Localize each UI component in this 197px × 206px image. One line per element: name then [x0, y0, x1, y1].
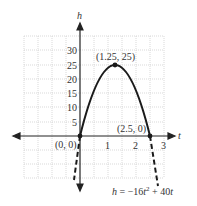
y-axis-down-arrow-icon	[77, 184, 83, 191]
eq-mid: = −16	[117, 186, 143, 197]
y-tick-10: 10	[67, 102, 77, 113]
x-axis-right-arrow-icon	[168, 133, 175, 139]
y-tick-30: 30	[67, 45, 77, 56]
x-tick-2: 2	[133, 140, 138, 151]
point-origin	[78, 134, 83, 139]
y-tick-20: 20	[67, 74, 77, 85]
point-vertex	[113, 63, 118, 68]
y-tick-5: 5	[72, 117, 77, 128]
x-tick-3: 3	[161, 140, 166, 151]
grid	[24, 36, 164, 178]
y-tick-25: 25	[67, 60, 77, 71]
eq-t2: t	[170, 186, 173, 197]
x-tick-labels: 1 2 3	[105, 140, 166, 151]
eq-end: + 40	[150, 186, 171, 197]
x-axis-left-arrow-icon	[13, 133, 20, 139]
equation-label: h = −16t2 + 40t	[112, 185, 173, 197]
y-axis-up-arrow-icon	[77, 23, 83, 30]
x-tick-1: 1	[105, 140, 110, 151]
parabola-curve-dashed-right	[150, 136, 158, 186]
y-axis-label: h	[77, 10, 82, 21]
x-axis-label: t	[178, 130, 181, 141]
y-tick-labels: 5 10 15 20 25 30	[67, 45, 77, 128]
point-root	[148, 134, 153, 139]
parabola-chart: t h 1 2 3 5 10 15 20 25 30 (0, 0) (1.25,…	[0, 0, 197, 206]
label-vertex: (1.25, 25)	[96, 51, 135, 63]
label-root: (2.5, 0)	[117, 123, 146, 135]
label-origin: (0, 0)	[55, 139, 77, 151]
y-tick-15: 15	[67, 88, 77, 99]
